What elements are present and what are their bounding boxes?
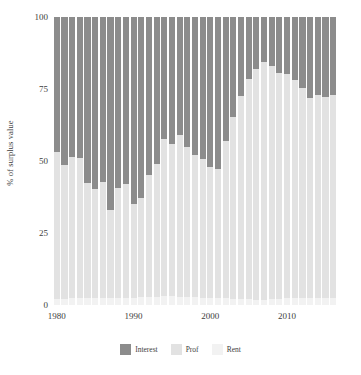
bar-1998[interactable] [192,17,198,305]
bar-segment-interest [115,17,121,188]
bar-1986[interactable] [100,17,106,305]
bar-segment-rent [61,299,67,305]
legend-item-rent[interactable]: Rent [212,344,241,355]
bar-1981[interactable] [61,17,67,305]
bar-segment-profit [215,168,221,298]
bar-segment-profit [200,159,206,297]
legend-swatch-interest [120,344,131,355]
bar-1982[interactable] [69,17,75,305]
bar-segment-interest [138,17,144,198]
bar-segment-interest [307,17,313,98]
bar-2007[interactable] [261,17,267,305]
bar-segment-rent [246,299,252,305]
bar-segment-profit [292,79,298,298]
bar-1993[interactable] [154,17,160,305]
bar-1995[interactable] [169,17,175,305]
bar-2000[interactable] [207,17,213,305]
bar-2006[interactable] [253,17,259,305]
bar-segment-profit [261,62,267,300]
bar-segment-interest [107,17,113,210]
bar-segment-interest [223,17,229,141]
bar-1983[interactable] [77,17,83,305]
bar-segment-profit [61,165,67,299]
bar-1996[interactable] [177,17,183,305]
bar-segment-rent [315,298,321,305]
bar-1994[interactable] [161,17,167,305]
legend-item-interest[interactable]: Interest [120,344,158,355]
bar-segment-rent [92,298,98,305]
bar-segment-profit [299,88,305,298]
bar-segment-profit [177,135,183,296]
bar-segment-interest [246,17,252,79]
bar-segment-rent [138,297,144,305]
bar-2009[interactable] [276,17,282,305]
bar-2013[interactable] [307,17,313,305]
bar-1991[interactable] [138,17,144,305]
bar-segment-interest [276,17,282,73]
bar-2014[interactable] [315,17,321,305]
y-axis-tick-label: 75 [14,84,48,94]
legend-label-interest: Interest [135,345,158,354]
bar-segment-rent [54,299,60,305]
legend-swatch-rent [212,344,223,355]
bar-segment-interest [207,17,213,167]
bar-segment-profit [253,69,259,299]
bar-segment-profit [276,73,282,299]
bar-1984[interactable] [84,17,90,305]
bar-2016[interactable] [330,17,336,305]
bar-2002[interactable] [223,17,229,305]
bar-1999[interactable] [200,17,206,305]
bar-segment-interest [146,17,152,175]
bar-segment-interest [330,17,336,95]
bar-2004[interactable] [238,17,244,305]
bar-segment-profit [238,96,244,299]
bar-segment-rent [223,298,229,305]
bar-2001[interactable] [215,17,221,305]
bar-2011[interactable] [292,17,298,305]
bar-1988[interactable] [115,17,121,305]
bar-segment-rent [207,298,213,305]
bar-1987[interactable] [107,17,113,305]
bar-2010[interactable] [284,17,290,305]
bar-1990[interactable] [131,17,137,305]
bar-1989[interactable] [123,17,129,305]
bar-2003[interactable] [230,17,236,305]
legend-swatch-profit [171,344,182,355]
bar-segment-profit [154,164,160,297]
bar-segment-profit [330,95,336,298]
bar-2005[interactable] [246,17,252,305]
bar-segment-rent [161,296,167,305]
bar-segment-interest [238,17,244,96]
legend-item-profit[interactable]: Prof [171,344,199,355]
bar-1985[interactable] [92,17,98,305]
y-axis-ticks: 0255075100 [10,0,48,375]
bar-segment-profit [54,152,60,299]
bar-segment-profit [107,210,113,298]
bar-segment-profit [169,144,175,297]
bar-segment-rent [77,298,83,305]
bar-segment-rent [154,297,160,305]
bar-1992[interactable] [146,17,152,305]
bar-2012[interactable] [299,17,305,305]
bar-1997[interactable] [184,17,190,305]
bar-segment-interest [269,17,275,66]
bar-segment-profit [84,183,90,298]
bar-segment-profit [207,167,213,298]
bar-segment-profit [315,95,321,298]
bar-segment-rent [100,298,106,305]
bar-segment-interest [299,17,305,88]
bar-segment-interest [315,17,321,95]
bar-1980[interactable] [54,17,60,305]
bar-segment-interest [177,17,183,135]
y-axis-tick-label: 50 [14,156,48,166]
y-axis-tick-label: 100 [14,12,48,22]
bar-segment-interest [54,17,60,152]
bar-2015[interactable] [322,17,328,305]
bar-segment-interest [154,17,160,164]
bar-segment-rent [284,298,290,305]
legend-label-profit: Prof [186,345,199,354]
bar-segment-interest [322,17,328,97]
bar-segment-interest [84,17,90,183]
bar-segment-interest [131,17,137,204]
bar-2008[interactable] [269,17,275,305]
